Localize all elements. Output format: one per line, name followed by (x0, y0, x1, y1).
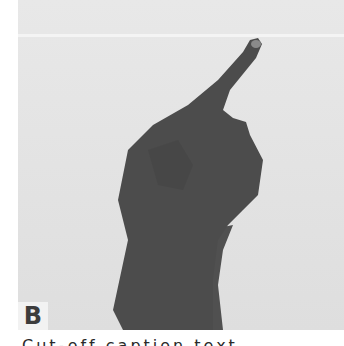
hand-illustration (18, 0, 344, 330)
panel-label: B (18, 302, 48, 330)
figure-caption: Cut-off caption text (22, 338, 238, 346)
pointing-hand-photo (18, 0, 344, 330)
